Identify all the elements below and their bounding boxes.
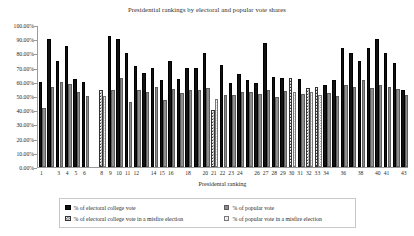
- y-tick-mark: [34, 140, 37, 141]
- bar-popular[interactable]: [129, 102, 132, 167]
- bar-popular[interactable]: [284, 91, 287, 167]
- x-tick-label: 43: [401, 170, 407, 176]
- x-tick-label: 9: [109, 170, 112, 176]
- x-tick-label: 26: [254, 170, 260, 176]
- bar-popular[interactable]: [189, 90, 192, 167]
- y-axis: 0.00%10.00%20.00%30.00%40.00%50.00%60.00…: [0, 26, 34, 168]
- bar-group: [39, 26, 46, 167]
- y-tick-label: 70.00%: [0, 66, 34, 72]
- bar-group: [177, 26, 184, 167]
- bar-popular[interactable]: [155, 87, 158, 167]
- bar-group: [116, 26, 123, 167]
- bar-popular[interactable]: [60, 82, 63, 167]
- bar-popular[interactable]: [198, 90, 201, 167]
- bar-popular[interactable]: [275, 97, 278, 167]
- y-tick-mark: [34, 26, 37, 27]
- bar-group: [142, 26, 149, 167]
- bar-popular[interactable]: [405, 95, 408, 167]
- bar-popular[interactable]: [258, 94, 261, 167]
- bar-popular[interactable]: [120, 78, 123, 167]
- x-tick-label: 32: [306, 170, 312, 176]
- bar-popular[interactable]: [111, 90, 114, 167]
- bar-popular[interactable]: [232, 95, 235, 167]
- bar-group: [211, 26, 218, 167]
- bar-group: [349, 26, 356, 167]
- bar-popular[interactable]: [396, 89, 399, 167]
- chart-container: Presidential rankings by electoral and p…: [0, 0, 414, 236]
- bar-popular[interactable]: [362, 80, 365, 167]
- bar-group: [375, 26, 382, 167]
- bar-group: [289, 26, 296, 167]
- bar-popular[interactable]: [42, 108, 45, 167]
- bar-popular[interactable]: [180, 93, 183, 167]
- bar-popular[interactable]: [86, 96, 89, 167]
- y-tick-mark: [34, 154, 37, 155]
- y-tick-mark: [34, 97, 37, 98]
- bar-popular[interactable]: [172, 89, 175, 167]
- bar-popular[interactable]: [379, 85, 382, 167]
- bar-popular-misfire[interactable]: [318, 95, 321, 167]
- bar-popular[interactable]: [241, 92, 244, 167]
- x-tick-label: 8: [100, 170, 103, 176]
- bar-popular[interactable]: [301, 94, 304, 167]
- bar-group: [160, 26, 167, 167]
- bar-popular[interactable]: [68, 84, 71, 167]
- x-tick-label: 4: [66, 170, 69, 176]
- bar-group: [341, 26, 348, 167]
- bar-popular-misfire[interactable]: [215, 99, 218, 167]
- bar-group: [332, 26, 339, 167]
- bar-popular-misfire[interactable]: [103, 96, 106, 167]
- x-tick-label: 1: [40, 170, 43, 176]
- bar-group: [323, 26, 330, 167]
- bar-popular[interactable]: [224, 95, 227, 167]
- bar-popular-misfire[interactable]: [310, 92, 313, 167]
- y-tick-label: 0.00%: [0, 165, 34, 171]
- legend-item-popular-misfire[interactable]: % of popular vote in a misfire election: [224, 213, 350, 224]
- bar-group: [99, 26, 106, 167]
- x-tick-label: 5: [74, 170, 77, 176]
- bar-popular[interactable]: [249, 92, 252, 167]
- y-tick-label: 80.00%: [0, 51, 34, 57]
- legend-item-popular[interactable]: % of popular vote: [224, 202, 350, 213]
- bar-popular[interactable]: [336, 96, 339, 167]
- bar-group: [315, 26, 322, 167]
- x-tick-label: 15: [159, 170, 165, 176]
- x-tick-label: 18: [185, 170, 191, 176]
- bar-popular-misfire[interactable]: [293, 92, 296, 167]
- bar-popular[interactable]: [146, 92, 149, 167]
- x-tick-label: 40: [375, 170, 381, 176]
- electoral-swatch-icon: [65, 205, 71, 211]
- legend-item-electoral[interactable]: % of electoral college vote: [65, 202, 224, 213]
- bar-popular[interactable]: [388, 87, 391, 167]
- bar-group: [237, 26, 244, 167]
- bar-popular[interactable]: [77, 92, 80, 167]
- legend-item-electoral-misfire[interactable]: % of electoral college vote in a misfire…: [65, 213, 224, 224]
- bar-popular[interactable]: [327, 93, 330, 167]
- bar-popular[interactable]: [206, 88, 209, 167]
- y-tick-label: 20.00%: [0, 137, 34, 143]
- bar-popular[interactable]: [267, 90, 270, 167]
- x-tick-label: 16: [168, 170, 174, 176]
- bar-group: [151, 26, 158, 167]
- legend-row-1: % of electoral college vote % of popular…: [65, 202, 350, 213]
- bar-popular[interactable]: [51, 87, 54, 167]
- bar-group: [82, 26, 89, 167]
- bar-group: [272, 26, 279, 167]
- x-tick-label: 28: [271, 170, 277, 176]
- y-tick-label: 50.00%: [0, 94, 34, 100]
- y-tick-label: 10.00%: [0, 151, 34, 157]
- x-tick-label: 29: [280, 170, 286, 176]
- bar-popular[interactable]: [353, 87, 356, 167]
- y-tick-label: 60.00%: [0, 80, 34, 86]
- bar-group: [65, 26, 72, 167]
- bar-popular[interactable]: [370, 88, 373, 167]
- bar-group: [393, 26, 400, 167]
- legend-label: % of popular vote in a misfire election: [232, 216, 321, 222]
- chart-title: Presidential rankings by electoral and p…: [0, 6, 414, 13]
- y-tick-mark: [34, 40, 37, 41]
- bar-popular[interactable]: [344, 85, 347, 167]
- bar-popular[interactable]: [163, 100, 166, 167]
- bar-group: [203, 26, 210, 167]
- y-tick-mark: [34, 168, 37, 169]
- bar-popular[interactable]: [137, 90, 140, 167]
